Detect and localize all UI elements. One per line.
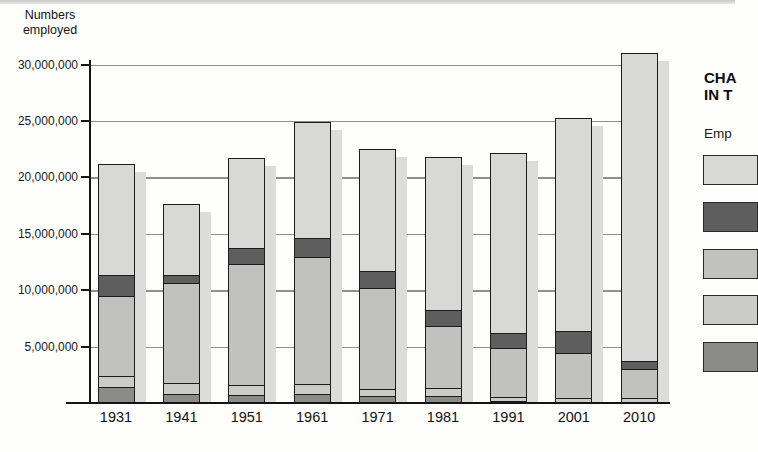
bar-2010-segment-second-band-dark-gray [622,361,657,369]
bar-1991-segment-middle-band-medium-hatched [491,348,526,398]
x-label-1951: 1951 [215,409,279,425]
legend-swatch-top-band-light-gray [703,155,758,185]
bar-1971-segment-fourth-band-pale-gray [360,389,395,396]
bar-1961 [294,122,331,403]
y-tick-label: 30,000,000 [0,57,78,73]
x-label-2010: 2010 [607,409,671,425]
legend-title-line2: IN T [704,86,737,103]
bar-1971-segment-second-band-dark-gray [360,271,395,288]
bar-1951-segment-top-band-light-gray [229,159,264,248]
bar-1991 [490,153,527,403]
x-label-1981: 1981 [411,409,475,425]
bar-1931-segment-second-band-dark-gray [99,275,134,295]
bar-2001 [555,118,592,403]
bar-1951 [228,158,265,403]
bar-1981 [425,157,462,403]
x-axis-line [66,402,670,404]
bar-1981-segment-top-band-light-gray [426,158,461,310]
legend-swatch-fourth-band-pale-gray [703,295,758,325]
y-tick-label: 15,000,000 [0,226,78,242]
bar-1931-segment-middle-band-medium-hatched [99,296,134,376]
y-axis-title-line1: Numbers [8,8,92,23]
bar-1931-segment-top-band-light-gray [99,165,134,276]
legend-swatch-bottom-band-mid-gray [703,342,758,372]
bar-1951-segment-fourth-band-pale-gray [229,385,264,395]
x-label-1991: 1991 [476,409,540,425]
bar-1941-segment-second-band-dark-gray [164,275,199,283]
bar-1941-segment-top-band-light-gray [164,205,199,275]
bar-1931 [98,164,135,403]
legend-title-line1: CHA [704,69,737,86]
x-label-1941: 1941 [149,409,213,425]
bar-1971-segment-middle-band-medium-hatched [360,288,395,390]
bar-1971-segment-top-band-light-gray [360,150,395,271]
y-tick-label: 20,000,000 [0,169,78,185]
bar-1941-segment-fourth-band-pale-gray [164,383,199,394]
bar-1961-segment-fourth-band-pale-gray [295,384,330,394]
scan-top-edge [0,0,735,4]
bar-1951-segment-middle-band-medium-hatched [229,264,264,385]
bar-1981-segment-second-band-dark-gray [426,310,461,326]
x-label-2001: 2001 [542,409,606,425]
bar-1941 [163,204,200,403]
bar-1961-segment-top-band-light-gray [295,123,330,238]
bar-1971 [359,149,396,403]
legend-swatch-middle-band-medium-hatched [703,249,758,279]
bar-2001-segment-top-band-light-gray [556,119,591,331]
legend-title: CHA IN T [704,69,737,103]
x-label-1961: 1961 [280,409,344,425]
x-label-1931: 1931 [84,409,148,425]
bar-1951-segment-second-band-dark-gray [229,248,264,264]
y-axis-title: Numbers employed [8,8,92,38]
bar-2010-segment-top-band-light-gray [622,54,657,361]
legend-note: Emp [704,126,732,141]
x-label-1971: 1971 [346,409,410,425]
bar-1991-segment-second-band-dark-gray [491,333,526,348]
y-tick-label: 10,000,000 [0,282,78,298]
bar-1981-segment-middle-band-medium-hatched [426,326,461,388]
y-tick-label: 5,000,000 [0,339,78,355]
bar-1981-segment-fourth-band-pale-gray [426,388,461,396]
y-axis-title-line2: employed [8,23,92,38]
legend-swatch-second-band-dark-gray [703,202,758,232]
y-axis-line [89,60,91,403]
bar-1961-segment-second-band-dark-gray [295,238,330,257]
bar-1991-segment-top-band-light-gray [491,154,526,333]
bar-2001-segment-second-band-dark-gray [556,331,591,354]
bar-2010 [621,53,658,403]
bar-2001-segment-middle-band-medium-hatched [556,353,591,398]
y-tick-label: 25,000,000 [0,113,78,129]
bar-1961-segment-middle-band-medium-hatched [295,257,330,383]
gridline-30m [91,65,660,66]
bar-2010-segment-middle-band-medium-hatched [622,369,657,398]
bar-1941-segment-middle-band-medium-hatched [164,283,199,382]
bar-1931-segment-fourth-band-pale-gray [99,376,134,387]
